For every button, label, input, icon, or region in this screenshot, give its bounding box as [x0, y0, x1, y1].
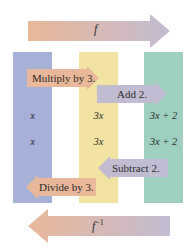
- add-2-label: Add 2.: [117, 82, 147, 106]
- divide-by-3-arrow: Divide by 3.: [26, 175, 96, 199]
- row1-range-value: 3x + 2: [140, 110, 187, 121]
- inverse-function-label: f−1: [92, 218, 104, 234]
- row1-middle-value: 3x: [79, 110, 118, 121]
- inverse-function-arrow: f−1: [26, 209, 172, 243]
- function-f-label: f: [94, 22, 97, 37]
- right-arrow-icon: [26, 14, 172, 48]
- function-f-arrow: f: [26, 14, 172, 48]
- row2-domain-value: x: [13, 136, 52, 147]
- multiply-by-3-arrow: Multiply by 3.: [27, 66, 99, 90]
- multiply-by-3-label: Multiply by 3.: [32, 66, 95, 90]
- add-2-arrow: Add 2.: [97, 82, 167, 106]
- range-column: [144, 52, 183, 203]
- inverse-function-exponent: −1: [95, 218, 104, 227]
- subtract-2-arrow: Subtract 2.: [98, 156, 168, 180]
- row2-middle-value: 3x: [79, 136, 118, 147]
- row2-range-value: 3x + 2: [140, 136, 187, 147]
- subtract-2-label: Subtract 2.: [112, 156, 160, 180]
- row1-domain-value: x: [13, 110, 52, 121]
- divide-by-3-label: Divide by 3.: [39, 175, 94, 199]
